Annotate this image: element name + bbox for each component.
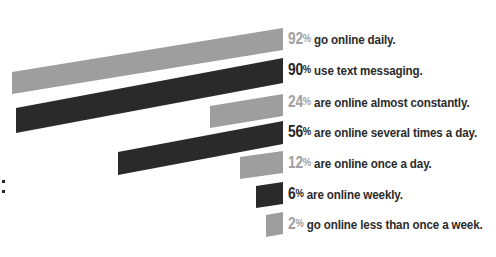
percent-sign-6: % — [295, 217, 303, 229]
bar-value-1: 90% — [288, 61, 311, 78]
bar-label-5: 6% are online weekly. — [288, 186, 403, 202]
bar-value-6: 2% — [288, 215, 304, 232]
bar-label-1: 90% use text messaging. — [288, 62, 423, 78]
colon-dot-bottom — [2, 190, 5, 193]
bar-label-6: 2% go online less than once a week. — [288, 216, 483, 232]
bar-description-6: go online less than once a week. — [307, 217, 483, 232]
colon-decoration-mark — [2, 180, 6, 196]
percent-sign-3: % — [303, 125, 311, 137]
bar-value-0: 92% — [288, 30, 311, 47]
bar-description-0: go online daily. — [314, 32, 396, 47]
bar-value-2: 24% — [288, 93, 311, 110]
bar-value-5: 6% — [288, 185, 304, 202]
percent-sign-1: % — [303, 63, 311, 75]
bar-value-3: 56% — [288, 123, 311, 140]
bar-description-3: are online several times a day. — [314, 125, 477, 140]
percent-sign-0: % — [303, 32, 311, 44]
bar-label-3: 56% are online several times a day. — [288, 124, 477, 140]
bar-description-1: use text messaging. — [314, 63, 423, 78]
percent-sign-4: % — [303, 156, 311, 168]
bar-label-4: 12% are online once a day. — [288, 155, 432, 171]
bar-description-4: are online once a day. — [314, 156, 432, 171]
colon-dot-top — [2, 180, 5, 183]
bar-label-2: 24% are online almost constantly. — [288, 94, 470, 110]
bar-value-4: 12% — [288, 154, 311, 171]
percent-sign-2: % — [303, 95, 311, 107]
slanted-bar-chart: 92% go online daily. 90% use text messag… — [0, 0, 496, 257]
bar-description-5: are online weekly. — [307, 187, 403, 202]
bar-label-0: 92% go online daily. — [288, 31, 396, 47]
percent-sign-5: % — [295, 187, 303, 199]
bar-description-2: are online almost constantly. — [314, 95, 469, 110]
bar-labels-layer: 92% go online daily. 90% use text messag… — [0, 0, 496, 257]
